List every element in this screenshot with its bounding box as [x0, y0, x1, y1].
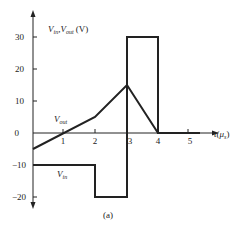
figure-caption: (a)	[103, 210, 113, 220]
x-tick-label-4: 4	[156, 136, 161, 146]
chart: 30 20 10 0 −10 −20 1 2 3 4 5 Vin,Vout (V…	[0, 0, 239, 226]
x-tick-label-3: 3	[128, 136, 133, 146]
y-tick-label-0: 0	[15, 128, 20, 138]
x-tick-label-5: 5	[188, 136, 193, 146]
x-tick-label-1: 1	[61, 136, 66, 146]
y-tick-label-m10: −10	[12, 160, 27, 170]
x-axis-label: t(μs)	[214, 129, 229, 140]
x-tick-label-2: 2	[93, 136, 98, 146]
vout-annotation: Vout	[54, 114, 68, 125]
y-tick-label-20: 20	[15, 64, 25, 74]
y-tick-label-m20: −20	[12, 192, 27, 202]
vin-annotation: Vin	[57, 169, 67, 180]
y-axis-arrow-up-icon	[31, 10, 36, 17]
y-ticks	[33, 37, 37, 197]
y-axis-label: Vin,Vout (V)	[48, 24, 88, 35]
y-tick-label-30: 30	[15, 32, 25, 42]
y-tick-label-10: 10	[15, 96, 25, 106]
y-axis-arrow-down-icon	[31, 202, 36, 209]
